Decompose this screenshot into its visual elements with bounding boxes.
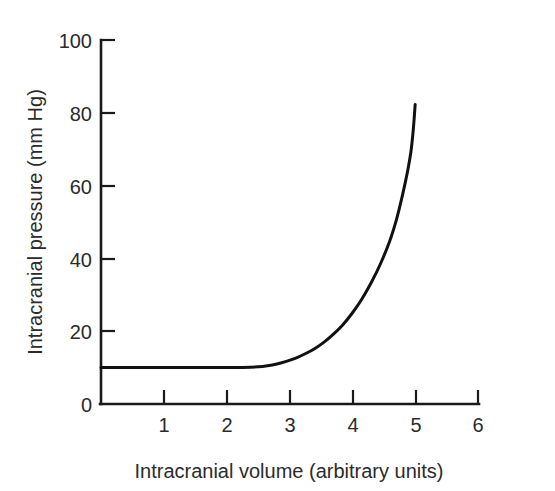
x-tick-label-1: 1 bbox=[158, 414, 169, 436]
y-tick-label-40: 40 bbox=[70, 249, 92, 271]
pressure-volume-chart: 100 80 60 40 20 0 1 2 3 4 5 6 Intracrani… bbox=[0, 0, 555, 491]
x-tick-label-5: 5 bbox=[410, 414, 421, 436]
x-tick-label-2: 2 bbox=[221, 414, 232, 436]
y-tick-label-100: 100 bbox=[59, 30, 92, 52]
x-tick-label-4: 4 bbox=[347, 414, 358, 436]
chart-figure: 100 80 60 40 20 0 1 2 3 4 5 6 Intracrani… bbox=[0, 0, 555, 491]
y-tick-label-80: 80 bbox=[70, 103, 92, 125]
y-tick-label-60: 60 bbox=[70, 176, 92, 198]
x-tick-label-3: 3 bbox=[284, 414, 295, 436]
y-axis-title: Intracranial pressure (mm Hg) bbox=[24, 89, 46, 355]
x-axis-title: Intracranial volume (arbitrary units) bbox=[135, 460, 444, 482]
y-tick-label-20: 20 bbox=[70, 321, 92, 343]
x-tick-label-6: 6 bbox=[472, 414, 483, 436]
y-tick-label-0: 0 bbox=[81, 394, 92, 416]
